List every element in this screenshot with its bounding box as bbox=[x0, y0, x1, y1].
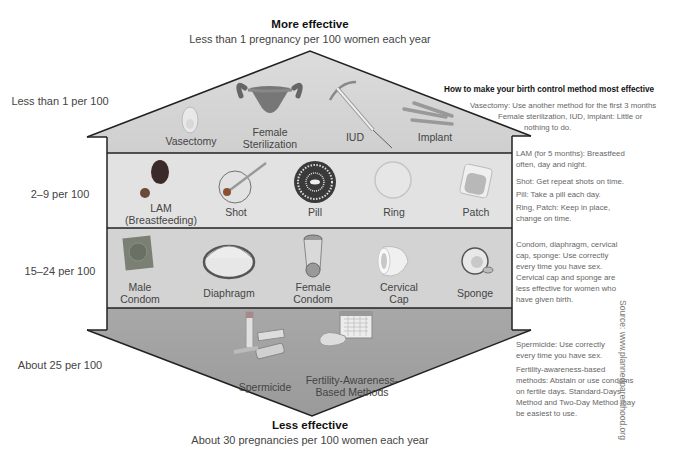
label-line: Sterilization bbox=[232, 138, 308, 150]
method-diaphragm: Diaphragm bbox=[198, 287, 260, 299]
guidance-barrier-methods: Condom, diaphragm, cervical cap, sponge:… bbox=[516, 239, 628, 305]
label-line: Cervical bbox=[374, 281, 424, 293]
method-spermicide: Spermicide bbox=[230, 381, 300, 393]
less-effective-subtitle: About 30 pregnancies per 100 women each … bbox=[0, 434, 620, 446]
label-line: Based Methods bbox=[300, 386, 404, 398]
guidance-lam: LAM (for 5 months): Breastfeed often, da… bbox=[516, 148, 626, 170]
bottom-arrow-tier bbox=[87, 308, 531, 416]
guidance-vasectomy: Vasectomy: Use another method for the fi… bbox=[470, 100, 670, 111]
method-cervical-cap: Cervical Cap bbox=[374, 281, 424, 305]
label-line: Condom bbox=[290, 293, 336, 305]
method-ring: Ring bbox=[376, 206, 412, 218]
guidance-spermicide: Spermicide: Use correctly every time you… bbox=[516, 339, 624, 361]
guidance-pill: Pill: Take a pill each day. bbox=[516, 189, 646, 200]
method-shot: Shot bbox=[216, 206, 256, 218]
rate-tier-2: 2–9 per 100 bbox=[5, 188, 115, 200]
guidance-ring-patch: Ring, Patch: Keep in place, change on ti… bbox=[516, 202, 626, 224]
label-line: Male bbox=[118, 281, 162, 293]
label-line: LAM bbox=[113, 202, 209, 214]
guidance-sterilization-iud-implant: Female sterilization, IUD, implant: Litt… bbox=[498, 111, 670, 122]
label-line: Cap bbox=[374, 293, 424, 305]
ring-icon bbox=[375, 162, 411, 198]
rate-tier-4: About 25 per 100 bbox=[5, 359, 115, 371]
patch-icon bbox=[459, 163, 493, 198]
vasectomy-icon bbox=[182, 107, 198, 133]
method-iud: IUD bbox=[335, 131, 375, 143]
label-line: Female bbox=[232, 126, 308, 138]
method-fertility-awareness: Fertility-Awareness- Based Methods bbox=[300, 374, 404, 398]
method-lam: LAM (Breastfeeding) bbox=[113, 202, 209, 226]
method-female-condom: Female Condom bbox=[290, 281, 336, 305]
method-female-sterilization: Female Sterilization bbox=[232, 126, 308, 150]
label-line: Female bbox=[290, 281, 336, 293]
guidance-title: How to make your birth control method mo… bbox=[444, 85, 654, 94]
pill-pack-icon bbox=[294, 161, 336, 203]
guidance-shot: Shot: Get repeat shots on time. bbox=[516, 176, 646, 187]
rate-tier-1: Less than 1 per 100 bbox=[5, 95, 115, 107]
roof-tier bbox=[87, 51, 531, 153]
male-condom-icon bbox=[122, 236, 153, 271]
label-line: (Breastfeeding) bbox=[113, 214, 209, 226]
method-pill: Pill bbox=[298, 206, 332, 218]
method-implant: Implant bbox=[410, 131, 460, 143]
method-patch: Patch bbox=[454, 206, 498, 218]
label-line: Fertility-Awareness- bbox=[300, 374, 404, 386]
label-line: Condom bbox=[118, 293, 162, 305]
method-male-condom: Male Condom bbox=[118, 281, 162, 305]
method-sponge: Sponge bbox=[450, 287, 500, 299]
rate-tier-3: 15–24 per 100 bbox=[5, 265, 115, 277]
guidance-little-to-do: nothing to do. bbox=[524, 122, 664, 133]
less-effective-title: Less effective bbox=[0, 419, 620, 431]
method-vasectomy: Vasectomy bbox=[160, 135, 222, 147]
female-condom-icon bbox=[304, 235, 322, 277]
source-credit: Source: www.plannedparenthood.org bbox=[618, 300, 628, 420]
diaphragm-icon bbox=[204, 246, 254, 278]
